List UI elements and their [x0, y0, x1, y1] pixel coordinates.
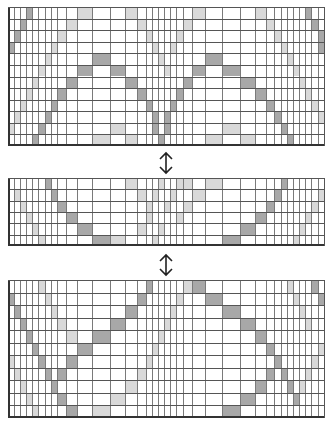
- grid-column-line: [38, 280, 39, 418]
- grid-row-line: [8, 65, 325, 66]
- light-cell: [57, 318, 66, 331]
- dark-cell: [183, 77, 192, 89]
- dark-cell: [57, 368, 66, 381]
- dark-cell: [57, 201, 66, 212]
- light-cell: [192, 7, 205, 19]
- dark-cell: [240, 393, 255, 406]
- light-cell: [311, 201, 318, 212]
- light-cell: [38, 65, 45, 77]
- grid-row-line: [8, 201, 325, 202]
- grid-row-line: [8, 355, 325, 356]
- light-cell: [77, 7, 92, 19]
- grid-column-line: [77, 280, 78, 418]
- light-cell: [137, 223, 146, 234]
- grid-column-line: [222, 280, 223, 418]
- double-arrow-icon: [157, 151, 175, 175]
- dark-cell: [266, 100, 274, 112]
- grid-row-line: [8, 368, 325, 369]
- light-cell: [57, 30, 66, 42]
- dark-cell: [266, 201, 274, 212]
- dark-cell: [38, 123, 45, 135]
- grid-border: [8, 178, 10, 246]
- top-grid: [8, 7, 325, 146]
- grid-column-line: [255, 280, 256, 418]
- grid-row-line: [8, 380, 325, 381]
- grid-column-line: [183, 280, 184, 418]
- light-cell: [222, 123, 240, 135]
- light-cell: [176, 30, 183, 42]
- grid-column-line: [266, 280, 267, 418]
- dark-cell: [274, 355, 281, 368]
- light-cell: [255, 7, 266, 19]
- light-cell: [66, 19, 77, 31]
- dark-cell: [274, 111, 281, 123]
- grid-column-line: [311, 280, 312, 418]
- dark-cell: [255, 212, 266, 223]
- light-cell: [311, 355, 318, 368]
- grid-column-line: [281, 280, 282, 418]
- dark-cell: [57, 88, 66, 100]
- grid-border: [8, 244, 325, 246]
- grid-column-line: [293, 280, 294, 418]
- grid-column-line: [318, 280, 319, 418]
- grid-row-line: [8, 123, 325, 124]
- light-cell: [311, 100, 318, 112]
- grid-column-line: [125, 280, 126, 418]
- light-cell: [137, 189, 146, 200]
- grid-column-line: [32, 280, 33, 418]
- dark-cell: [266, 343, 274, 356]
- dark-cell: [205, 293, 222, 306]
- light-cell: [125, 380, 137, 393]
- grid-column-line: [299, 280, 300, 418]
- grid-row-line: [8, 235, 325, 236]
- dark-cell: [240, 77, 255, 89]
- light-cell: [176, 178, 183, 189]
- light-cell: [137, 368, 146, 381]
- grid-row-line: [8, 53, 325, 54]
- dark-cell: [240, 318, 255, 331]
- dark-cell: [240, 223, 255, 234]
- dark-cell: [110, 318, 125, 331]
- light-cell: [183, 201, 192, 212]
- light-cell: [66, 330, 77, 343]
- grid-column-line: [20, 280, 21, 418]
- dark-cell: [77, 343, 92, 356]
- grid-column-line: [57, 280, 58, 418]
- grid-row-line: [8, 212, 325, 213]
- grid-row-line: [8, 88, 325, 89]
- grid-row-line: [8, 318, 325, 319]
- grid-column-line: [164, 280, 165, 418]
- grid-column-line: [176, 280, 177, 418]
- grid-border: [324, 7, 325, 146]
- light-cell: [38, 280, 45, 293]
- grid-border: [8, 7, 325, 8]
- light-cell: [110, 123, 125, 135]
- dark-cell: [77, 65, 92, 77]
- grid-column-line: [274, 280, 275, 418]
- dark-cell: [57, 393, 66, 406]
- dark-cell: [192, 65, 205, 77]
- light-cell: [110, 393, 125, 406]
- grid-row-line: [8, 305, 325, 306]
- grid-row-line: [8, 77, 325, 78]
- dark-cell: [66, 355, 77, 368]
- light-cell: [205, 178, 222, 189]
- light-cell: [176, 293, 183, 306]
- dark-cell: [311, 19, 318, 31]
- grid-column-line: [92, 280, 93, 418]
- dark-cell: [137, 88, 146, 100]
- dark-cell: [222, 65, 240, 77]
- grid-row-line: [8, 19, 325, 20]
- dark-cell: [38, 355, 45, 368]
- dark-cell: [274, 189, 281, 200]
- dark-cell: [266, 368, 274, 381]
- light-cell: [183, 280, 192, 293]
- grid-column-line: [110, 280, 111, 418]
- light-cell: [125, 7, 137, 19]
- grid-row-line: [8, 343, 325, 344]
- light-cell: [266, 19, 274, 31]
- grid-border: [8, 280, 10, 418]
- light-cell: [176, 212, 183, 223]
- double-arrow-icon: [157, 253, 175, 277]
- dark-cell: [255, 88, 266, 100]
